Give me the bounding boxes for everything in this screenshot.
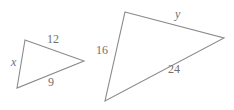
geometry-figure: 12 x 9 y 16 24 [0,0,234,110]
small-triangle-side-label-top: 12 [47,33,59,45]
large-triangle-side-label-bottom: 24 [168,63,180,75]
triangles-canvas [0,0,234,110]
small-triangle-side-label-bottom: 9 [48,76,54,88]
small-triangle-side-label-left: x [11,56,16,68]
large-triangle-side-label-left: 16 [96,44,108,56]
large-triangle-side-label-top: y [175,8,180,20]
large-triangle [105,12,224,101]
